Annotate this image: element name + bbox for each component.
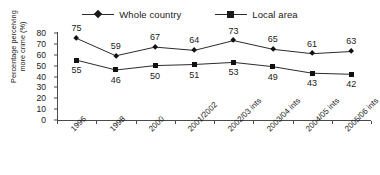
data-point bbox=[270, 64, 275, 69]
data-label: 53 bbox=[229, 67, 239, 77]
data-point bbox=[113, 67, 118, 72]
data-label: 65 bbox=[268, 34, 278, 44]
data-label: 64 bbox=[189, 35, 199, 45]
data-point bbox=[231, 60, 236, 65]
data-point bbox=[349, 72, 354, 77]
data-label: 43 bbox=[307, 78, 317, 88]
data-label: 46 bbox=[111, 75, 121, 85]
data-point bbox=[310, 71, 315, 76]
data-label: 51 bbox=[189, 70, 199, 80]
series-lines bbox=[0, 0, 380, 175]
data-label: 50 bbox=[150, 71, 160, 81]
data-point bbox=[74, 58, 79, 63]
data-point bbox=[153, 63, 158, 68]
line-chart: Whole country Local area Percentage perc… bbox=[0, 0, 380, 175]
data-label: 42 bbox=[346, 79, 356, 89]
data-point bbox=[192, 62, 197, 67]
data-label: 63 bbox=[346, 36, 356, 46]
data-label: 73 bbox=[229, 26, 239, 36]
data-label: 55 bbox=[72, 65, 82, 75]
data-label: 75 bbox=[72, 23, 82, 33]
data-label: 59 bbox=[111, 41, 121, 51]
data-label: 49 bbox=[268, 72, 278, 82]
data-label: 67 bbox=[150, 32, 160, 42]
data-label: 61 bbox=[307, 39, 317, 49]
